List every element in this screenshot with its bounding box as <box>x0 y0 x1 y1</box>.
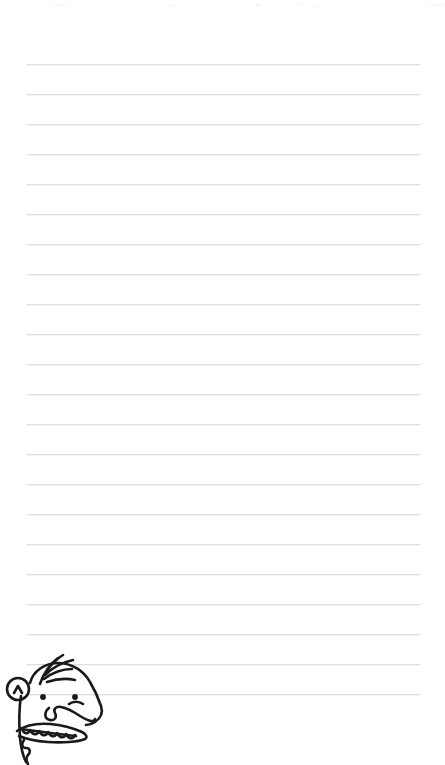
ruled-line <box>27 64 420 65</box>
ruled-line <box>27 364 420 365</box>
ear-inner-notch <box>14 686 22 693</box>
ruled-line <box>27 184 420 185</box>
ear-icon <box>7 678 29 700</box>
ruled-line <box>27 214 420 215</box>
ruled-line <box>27 634 420 635</box>
ruled-line <box>27 604 420 605</box>
notebook-page <box>0 0 445 765</box>
ruled-lines-layer <box>0 0 445 765</box>
left-eye-icon <box>40 694 46 700</box>
ruled-line <box>27 274 420 275</box>
ruled-line <box>27 454 420 455</box>
ruled-line <box>27 334 420 335</box>
ruled-line <box>27 574 420 575</box>
ruled-line <box>27 94 420 95</box>
nose-path <box>45 707 95 721</box>
ruled-line <box>27 424 420 425</box>
ruled-line <box>27 154 420 155</box>
wimpy-kid-face <box>0 652 120 765</box>
hair-strand-4 <box>47 679 75 682</box>
ruled-line <box>27 244 420 245</box>
ruled-line <box>27 394 420 395</box>
ruled-line <box>27 514 420 515</box>
head-outline-path <box>30 663 102 725</box>
right-eye-icon <box>72 694 78 700</box>
ruled-line <box>27 304 420 305</box>
ruled-line <box>27 124 420 125</box>
ruled-line <box>27 484 420 485</box>
eyebrow-path <box>69 702 83 704</box>
ruled-line <box>27 544 420 545</box>
